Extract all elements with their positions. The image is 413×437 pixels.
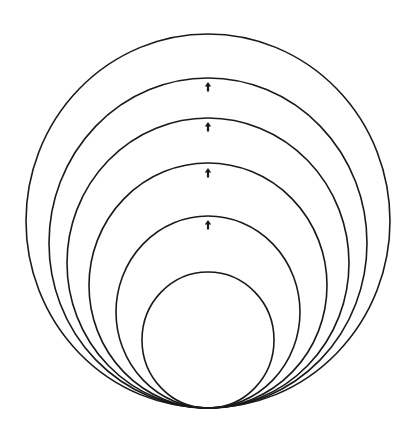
diagram-canvas <box>0 0 413 437</box>
circle-6 <box>142 272 274 408</box>
circle-4 <box>89 163 327 408</box>
up-arrow-icon <box>205 122 211 132</box>
up-arrow-icon <box>205 82 211 92</box>
up-arrow-icon <box>205 220 211 230</box>
up-arrow-icon <box>205 168 211 178</box>
circle-3 <box>67 118 349 408</box>
circle-5 <box>116 216 300 408</box>
arrows-group <box>205 82 211 230</box>
nested-circles-diagram <box>0 0 413 437</box>
